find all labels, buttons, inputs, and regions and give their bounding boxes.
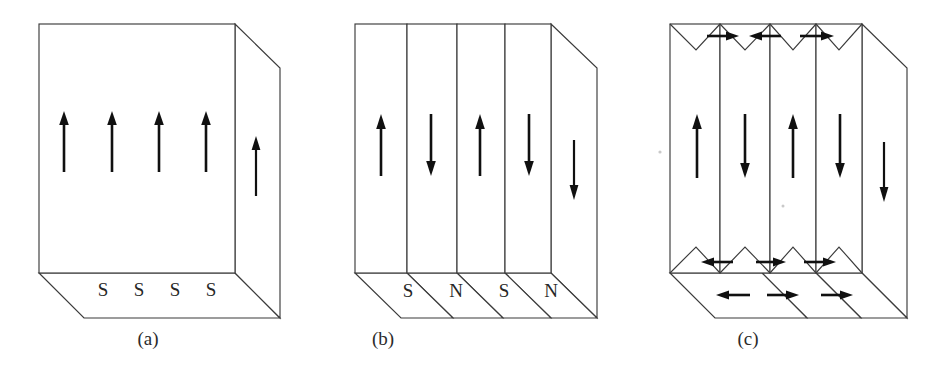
magnetic-domain-figure: S S S S (a) <box>0 0 935 385</box>
panel-a-caption: (a) <box>137 328 158 350</box>
panel-a-pole-label: S <box>206 279 217 300</box>
panel-c-slab-face-1 <box>670 24 720 273</box>
panel-b-pole-label: N <box>449 280 463 301</box>
panel-b-caption: (b) <box>372 328 394 350</box>
panel-b-pole-label: S <box>403 280 414 301</box>
panel-a-pole-label: S <box>98 279 109 300</box>
panel-b-pole-label: N <box>544 280 558 301</box>
panel-a-pole-label: S <box>134 279 145 300</box>
scan-speck <box>782 205 785 208</box>
scan-speck <box>658 150 661 153</box>
panel-a-right-face <box>235 24 280 318</box>
panel-c: (c) <box>670 24 907 350</box>
panel-a-pole-label: S <box>170 279 181 300</box>
figure-canvas: S S S S (a) <box>0 0 935 385</box>
panel-b: S N S N (b) <box>355 24 597 350</box>
panel-c-caption: (c) <box>737 328 758 350</box>
panel-a: S S S S (a) <box>39 24 280 350</box>
panel-b-pole-label: S <box>499 280 510 301</box>
